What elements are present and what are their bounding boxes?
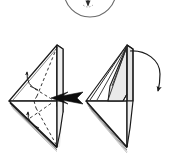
origami-diagram-canvas [0, 0, 170, 156]
right-narrow-column-shaded [127, 45, 133, 101]
right-lower-face [86, 101, 127, 147]
origami-instruction-diagram: Two origami steps: push-in fold on left … [0, 0, 170, 156]
fold-down-arrow-right [130, 51, 160, 91]
detail-circle-outline [64, 0, 116, 17]
partial-circle-detail [64, 0, 116, 17]
small-arrowhead-marker [83, 0, 93, 7]
fold-down-arrow-path [130, 51, 160, 91]
left-upper-face [9, 45, 57, 101]
origami-model-right [86, 45, 133, 153]
left-lower-face [9, 101, 57, 147]
